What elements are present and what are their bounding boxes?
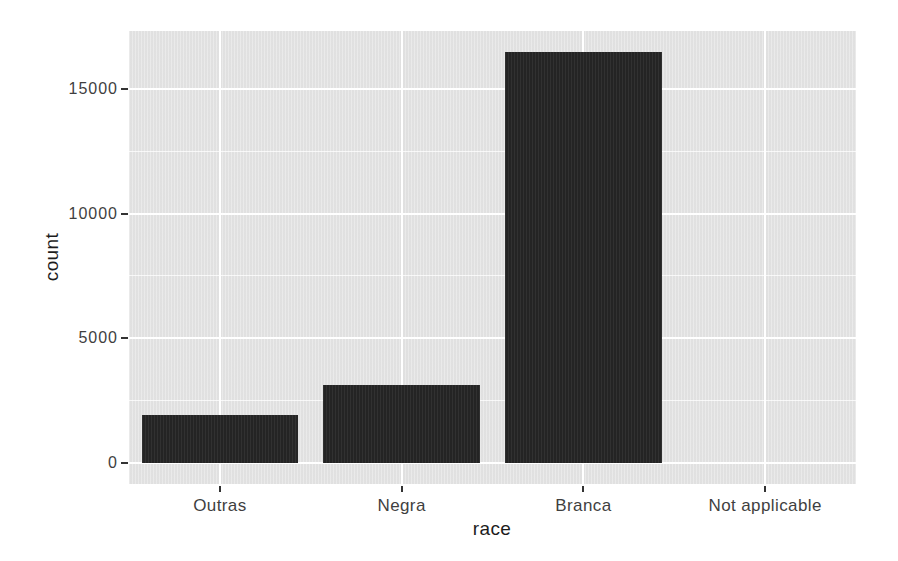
gridline-minor-horizontal	[129, 400, 856, 401]
gridline-minor-horizontal	[129, 275, 856, 276]
bar-negra	[323, 385, 479, 464]
x-tick-mark	[401, 486, 403, 492]
gridline-major-horizontal	[129, 337, 856, 339]
x-tick-mark	[219, 486, 221, 492]
gridline-major-horizontal	[129, 213, 856, 215]
screenshot-root: 050001000015000OutrasNegraBrancaNot appl…	[0, 0, 898, 561]
y-tick-label: 10000	[0, 205, 118, 223]
bar-outras	[142, 415, 298, 463]
y-tick-label: 15000	[0, 80, 118, 98]
x-tick-mark	[764, 486, 766, 492]
bar-branca	[505, 52, 661, 464]
x-tick-label: Not applicable	[708, 496, 821, 515]
y-tick-mark	[121, 213, 128, 215]
x-axis-title: race	[473, 518, 512, 540]
x-tick-label: Branca	[555, 496, 611, 515]
x-tick-label: Outras	[193, 496, 246, 515]
y-tick-mark	[121, 462, 128, 464]
bar-chart-figure: 050001000015000OutrasNegraBrancaNot appl…	[0, 0, 898, 561]
gridline-major-vertical	[764, 31, 766, 484]
y-tick-mark	[121, 88, 128, 90]
y-tick-label: 5000	[0, 329, 118, 347]
gridline-minor-horizontal	[129, 151, 856, 152]
y-tick-mark	[121, 337, 128, 339]
x-tick-label: Negra	[377, 496, 425, 515]
x-tick-mark	[582, 486, 584, 492]
y-tick-label: 0	[0, 454, 118, 472]
gridline-major-horizontal	[129, 88, 856, 90]
y-axis-title: count	[41, 233, 63, 281]
plot-panel	[129, 31, 856, 484]
